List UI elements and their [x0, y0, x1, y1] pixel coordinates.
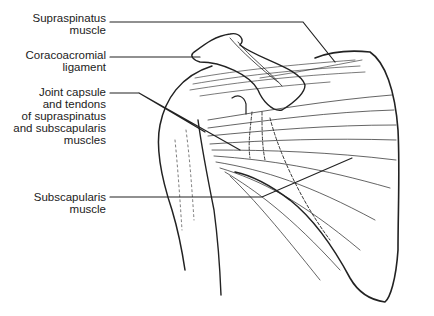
shoulder-illustration [0, 0, 434, 316]
leader-supraspinatus [110, 22, 335, 62]
